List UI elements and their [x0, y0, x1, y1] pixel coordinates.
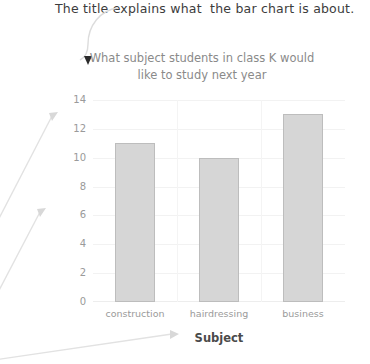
gridline: [93, 100, 345, 101]
bar-construction[interactable]: [115, 143, 155, 302]
y-axis-tick-label: 4: [56, 238, 86, 249]
y-axis-tick-label: 8: [56, 181, 86, 192]
plot-area: [93, 100, 345, 302]
x-axis-tick-label: hairdressing: [177, 308, 261, 319]
y-axis-tick-label: 12: [56, 123, 86, 134]
y-axis-tick-label: 2: [56, 267, 86, 278]
y-axis-tick-label: 10: [56, 152, 86, 163]
category-separator: [261, 100, 262, 302]
x-axis-tick-label: business: [261, 308, 345, 319]
chart-title-line-1: What subject students in class K would: [90, 51, 315, 65]
x-axis-label: Subject: [93, 331, 345, 345]
bar-hairdressing[interactable]: [199, 158, 239, 302]
x-axis-tick-label: construction: [93, 308, 177, 319]
chart-title: What subject students in class K would l…: [88, 50, 316, 84]
chart-title-line-2: like to study next year: [138, 68, 267, 82]
y-axis-tick-label: 0: [56, 296, 86, 307]
bar-chart: What subject students in class K would l…: [0, 0, 370, 364]
bar-business[interactable]: [283, 114, 323, 302]
category-separator: [177, 100, 178, 302]
y-axis-tick-label: 6: [56, 209, 86, 220]
y-axis-tick-label: 14: [56, 94, 86, 105]
